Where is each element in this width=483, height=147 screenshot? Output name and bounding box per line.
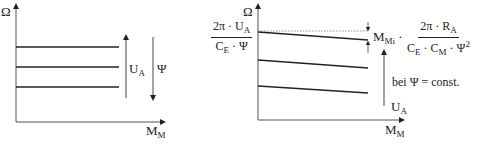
- numerator-text: 2π · U: [213, 19, 244, 33]
- no-load-formula-denominator: CE · Ψ: [215, 38, 247, 55]
- no-load-speed-formula: 2π · UA CE · Ψ: [211, 20, 252, 55]
- drop-den-psi: · Ψ: [447, 41, 466, 55]
- left-y-axis-label: Ω: [1, 5, 11, 18]
- right-curve-2: [258, 60, 368, 68]
- condition-label: bei Ψ = const.: [392, 76, 460, 88]
- numerator-sub: A: [244, 25, 251, 35]
- left-x-axis-label-sub: M: [158, 130, 166, 140]
- left-x-axis-label: MM: [146, 124, 166, 140]
- multiply-dot: ·: [395, 29, 403, 44]
- right-x-axis-label-sub: M: [397, 129, 405, 139]
- right-y-axis-label: Ω: [243, 5, 253, 18]
- drop-num-text: 2π · R: [420, 19, 450, 33]
- left-ua-label: UA: [129, 62, 145, 78]
- drop-den-exponent: 2: [465, 39, 470, 49]
- right-x-axis-label: MM: [385, 123, 405, 139]
- torque-mi-label: MMi ·: [373, 30, 403, 46]
- right-ua-label-sub: A: [400, 106, 407, 116]
- right-curve-3: [258, 86, 368, 93]
- left-x-axis-label-main: M: [146, 123, 158, 138]
- speed-drop-denominator: CE · CM · Ψ2: [407, 38, 470, 57]
- speed-drop-formula: 2π · RA CE · CM · Ψ2: [407, 20, 470, 57]
- drop-den-c2: · C: [421, 41, 439, 55]
- drop-den-c2-sub: M: [439, 47, 447, 57]
- left-ua-label-main: U: [129, 61, 138, 76]
- drop-den-c1: C: [407, 41, 415, 55]
- right-curve-1: [258, 32, 368, 40]
- speed-drop-numerator: 2π · RA: [418, 20, 459, 38]
- denominator-psi: · Ψ: [229, 39, 248, 53]
- m-sub: Mi: [385, 36, 396, 46]
- left-curves: [16, 47, 119, 87]
- right-diagram-axes: [258, 6, 402, 120]
- no-load-formula-numerator: 2π · UA: [211, 20, 252, 38]
- right-ua-label-main: U: [391, 99, 400, 114]
- right-x-axis-label-main: M: [385, 122, 397, 137]
- right-curves: [258, 32, 368, 93]
- left-ua-label-sub: A: [138, 68, 145, 78]
- m-main: M: [373, 29, 385, 44]
- right-ua-label: UA: [391, 100, 407, 116]
- drop-num-sub: A: [450, 25, 457, 35]
- left-psi-label: Ψ: [157, 62, 167, 75]
- motor-characteristics-figure: Ω MM UA Ψ Ω MM 2π · UA CE · Ψ MMi · 2π ·…: [0, 0, 483, 147]
